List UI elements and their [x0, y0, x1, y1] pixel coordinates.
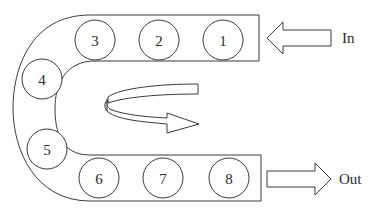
- in-arrow-icon: [267, 22, 331, 54]
- station-4: 4: [22, 59, 62, 99]
- station-label: 7: [159, 171, 167, 187]
- station-label: 1: [219, 33, 227, 49]
- station-label: 3: [91, 33, 99, 49]
- output-label: Out: [339, 171, 362, 187]
- station-2: 2: [139, 20, 179, 60]
- input-label: In: [342, 30, 355, 46]
- station-5: 5: [27, 129, 67, 169]
- station-label: 8: [225, 171, 233, 187]
- station-3: 3: [75, 20, 115, 60]
- station-6: 6: [79, 158, 119, 198]
- station-label: 5: [43, 142, 51, 158]
- station-label: 4: [38, 72, 46, 88]
- station-8: 8: [209, 158, 249, 198]
- station-label: 6: [95, 171, 103, 187]
- u-turn-arrow-icon: [105, 84, 199, 133]
- station-label: 2: [155, 33, 163, 49]
- station-7: 7: [143, 158, 183, 198]
- u-shaped-flow-diagram: 1 2 3 4 5 6 7 8: [0, 0, 374, 212]
- station-1: 1: [203, 20, 243, 60]
- out-arrow-icon: [267, 163, 331, 195]
